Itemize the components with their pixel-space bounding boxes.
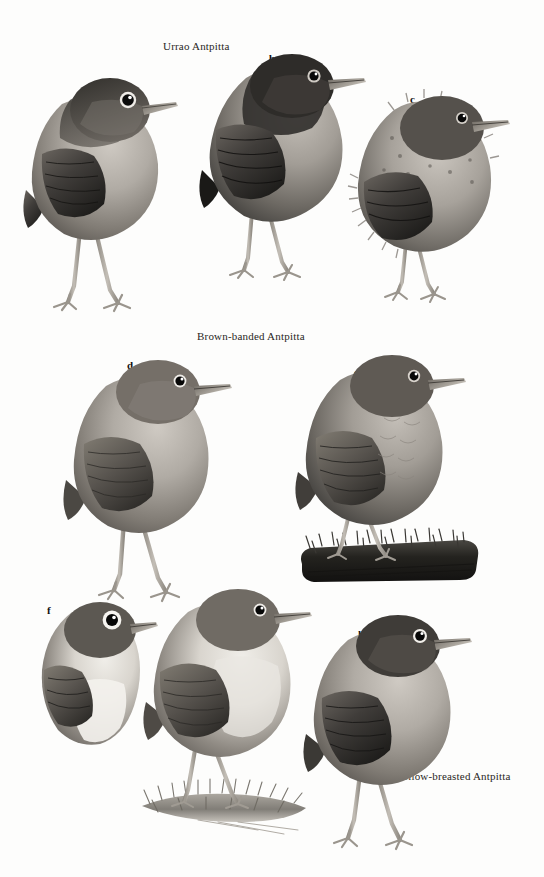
eye-e	[410, 372, 419, 381]
head-e	[350, 355, 434, 417]
species-caption-brown-banded: Brown-banded Antpitta	[197, 330, 305, 342]
head-c	[400, 96, 484, 160]
bird-figure-e	[288, 358, 503, 603]
eye-f	[106, 614, 118, 626]
bill-c	[472, 120, 510, 132]
legs-b	[230, 212, 300, 280]
eye-d	[175, 376, 184, 385]
bill-h	[434, 638, 472, 650]
illustration-plate: Urrao Antpitta Brown-banded Antpitta Yel…	[0, 0, 544, 877]
eye-b	[309, 71, 318, 80]
eye-h	[415, 631, 425, 641]
bill-e	[428, 378, 466, 390]
eye-g	[255, 605, 264, 614]
eye-a	[122, 94, 134, 106]
bird-figure-a	[18, 62, 193, 312]
bill-d	[194, 384, 232, 396]
legs-a	[54, 230, 130, 311]
moss-perch-e	[301, 528, 478, 582]
bird-figure-d	[58, 352, 258, 602]
bird-figure-c	[338, 86, 528, 316]
species-caption-urrao: Urrao Antpitta	[163, 40, 230, 52]
legs-h	[334, 774, 412, 849]
grass-perch-g	[142, 779, 306, 834]
bird-figure-h	[298, 612, 498, 857]
head-f	[64, 602, 136, 658]
head-g	[196, 589, 280, 651]
eye-c	[458, 114, 467, 123]
